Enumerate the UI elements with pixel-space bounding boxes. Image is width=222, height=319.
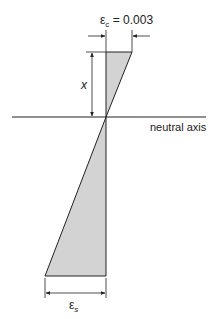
x-label: x (80, 78, 88, 92)
neutral-axis-label: neutral axis (150, 121, 207, 133)
epsilon-s-label: εs (69, 298, 78, 314)
tension-strain-triangle (45, 117, 106, 276)
strain-diagram: εc = 0.003 x neutral axis εs (0, 0, 222, 319)
compression-strain-triangle (106, 52, 132, 117)
epsilon-c-label: εc = 0.003 (100, 13, 153, 29)
